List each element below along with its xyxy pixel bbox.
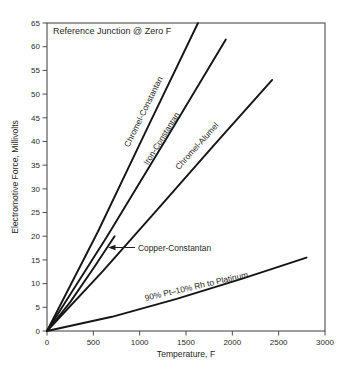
y-tick-label: 55 — [31, 66, 40, 75]
x-tick-label: 3000 — [316, 338, 334, 347]
y-tick-label: 5 — [36, 303, 41, 312]
labels-layer: Reference Junction @ Zero F Temperature,… — [10, 26, 249, 359]
y-tick-label: 10 — [31, 279, 40, 288]
y-tick-label: 65 — [31, 19, 40, 28]
y-tick-label: 60 — [31, 42, 40, 51]
series-label-copper-constantan: Copper-Constantan — [138, 243, 211, 253]
series-label-pt-rh-platinum: 90% Pt–10% Rh to Platinum — [144, 269, 249, 303]
y-tick-label: 0 — [36, 327, 41, 336]
x-tick-label: 2000 — [223, 338, 241, 347]
x-axis-title: Temperature, F — [157, 349, 215, 359]
x-tick-label: 0 — [45, 338, 50, 347]
y-tick-label: 45 — [31, 114, 40, 123]
y-tick-label: 50 — [31, 90, 40, 99]
x-tick-label: 500 — [87, 338, 101, 347]
y-tick-label: 15 — [31, 256, 40, 265]
thermocouple-emf-chart: 0500100015002000250030000510152025303540… — [0, 0, 350, 375]
series-label-iron-constantan: Iron-Constantan — [141, 110, 181, 167]
thermocouple-emf-figure: 0500100015002000250030000510152025303540… — [0, 0, 350, 375]
y-tick-label: 40 — [31, 137, 40, 146]
y-axis-title: Electromotive Force, Millivolts — [10, 120, 20, 234]
y-tick-label: 25 — [31, 208, 40, 217]
x-tick-label: 1000 — [131, 338, 149, 347]
x-tick-label: 1500 — [177, 338, 195, 347]
y-tick-label: 35 — [31, 161, 40, 170]
y-tick-label: 20 — [31, 232, 40, 241]
reference-junction-annotation: Reference Junction @ Zero F — [53, 26, 172, 36]
y-tick-label: 30 — [31, 185, 40, 194]
x-tick-label: 2500 — [270, 338, 288, 347]
